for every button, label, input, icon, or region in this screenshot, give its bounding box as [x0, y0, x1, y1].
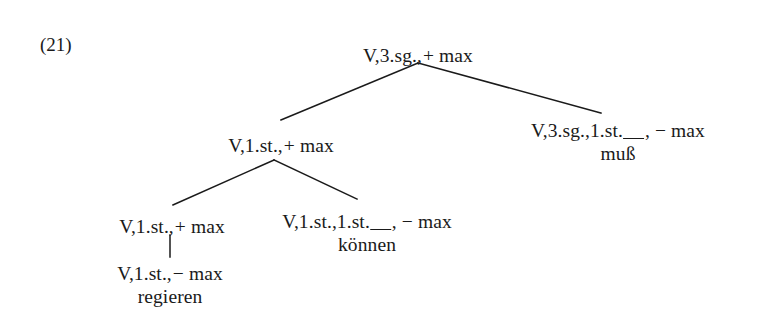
- edge-root-to-muss: [418, 63, 601, 113]
- edge-root-to-left: [281, 63, 418, 120]
- tree-node-regieren-label: V,1.st.,− max: [117, 263, 223, 284]
- tree-node-koennen-word: können: [282, 234, 452, 256]
- tree-node-regieren-word: regieren: [117, 286, 223, 308]
- trace-gap-marker: [370, 229, 391, 230]
- edge-left-to-koennen: [274, 160, 357, 199]
- tree-node-root: V,3.sg.,+ max: [363, 45, 473, 67]
- tree-node-left-left: V,1.st.,+ max: [119, 216, 225, 238]
- tree-node-regieren: V,1.st.,− max regieren: [117, 263, 223, 308]
- tree-node-left-feature: + max: [283, 135, 334, 156]
- tree-node-regieren-feature: − max: [172, 263, 223, 284]
- tree-node-left-category: V,1.st.,: [228, 135, 283, 156]
- tree-node-muss-word: muß: [531, 143, 705, 165]
- tree-node-muss: V,3.sg.,1.st., − max muß: [531, 120, 705, 165]
- tree-node-left-left-feature: + max: [174, 216, 225, 237]
- example-number: (21): [40, 35, 72, 54]
- tree-node-koennen: V,1.st.,1.st., − max können: [282, 211, 452, 256]
- tree-node-root-label: V,3.sg.,+ max: [363, 45, 473, 66]
- trace-gap-marker: [624, 138, 645, 139]
- tree-node-root-category: V,3.sg.,: [363, 45, 422, 66]
- tree-node-left-left-label: V,1.st.,+ max: [119, 216, 225, 237]
- tree-node-regieren-category: V,1.st.,: [117, 263, 172, 284]
- tree-node-left-left-category: V,1.st.,: [119, 216, 174, 237]
- tree-node-muss-category: V,3.sg.,1.st.: [531, 120, 623, 141]
- tree-node-root-feature: + max: [422, 45, 473, 66]
- tree-node-left: V,1.st.,+ max: [228, 135, 334, 157]
- tree-node-muss-feature: , − max: [645, 120, 705, 141]
- tree-node-koennen-feature: , − max: [392, 211, 452, 232]
- tree-node-koennen-label: V,1.st.,1.st., − max: [282, 211, 452, 232]
- tree-node-muss-label: V,3.sg.,1.st., − max: [531, 120, 705, 141]
- edge-left-to-left-left: [173, 160, 274, 205]
- tree-node-koennen-category: V,1.st.,1.st.: [282, 211, 370, 232]
- tree-node-left-label: V,1.st.,+ max: [228, 135, 334, 156]
